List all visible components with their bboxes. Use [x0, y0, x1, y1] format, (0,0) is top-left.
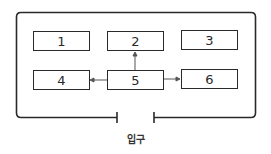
room-6: 6 [181, 69, 238, 89]
arrowhead-left-icon [90, 78, 94, 82]
room-2-label: 2 [131, 34, 139, 49]
room-6-label: 6 [205, 72, 213, 87]
entrance-label: 입구 [127, 131, 145, 146]
room-4: 4 [33, 70, 90, 90]
arrowhead-right-icon [176, 77, 180, 81]
room-5: 5 [107, 70, 164, 90]
room-3-label: 3 [205, 33, 213, 48]
room-3: 3 [181, 30, 238, 50]
outer-wall [17, 13, 256, 118]
room-5-label: 5 [131, 73, 139, 88]
room-1-label: 1 [57, 34, 65, 49]
room-4-label: 4 [57, 73, 65, 88]
arrowhead-up-icon [133, 52, 137, 56]
room-2: 2 [107, 31, 164, 51]
room-1: 1 [33, 31, 90, 51]
